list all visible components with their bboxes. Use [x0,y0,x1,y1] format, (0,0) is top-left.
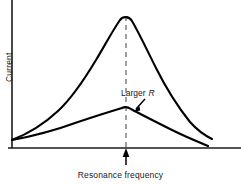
resonance-curve-figure: Current Resonance frequency LargerR [0,0,241,184]
resonance-tick-arrow-head [123,148,130,157]
curve-large-resistance [12,107,208,146]
annotation-symbol: R [146,88,155,98]
curve-small-resistance [12,17,212,140]
annotation-arrow-head [133,106,140,112]
annotation-arrow-shaft [136,99,145,109]
x-axis-label: Resonance frequency [0,171,241,180]
y-axis-label: Current [5,41,14,93]
annotation-text: Larger [121,88,146,98]
larger-r-annotation: LargerR [121,89,155,98]
